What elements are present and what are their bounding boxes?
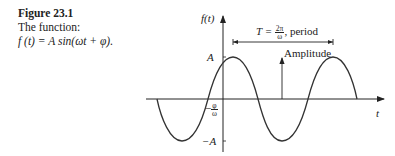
neg-amplitude-tick-label: −A [202,135,216,147]
x-axis-label: t [376,107,379,119]
sine-plot [0,0,395,156]
amplitude-label: Amplitude [284,47,331,59]
phase-label: −φω [205,102,218,117]
period-label: T = 2πω, period [256,25,318,40]
y-axis-label: f(t) [201,12,214,24]
amplitude-tick-label: A [207,51,214,63]
